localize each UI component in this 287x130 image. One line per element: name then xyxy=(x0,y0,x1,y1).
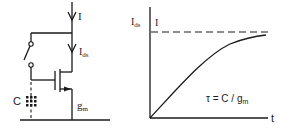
response-curve xyxy=(150,35,266,118)
diagram-canvas: I Ids gm C xyxy=(0,0,287,130)
switch-contact-top-icon xyxy=(29,42,33,46)
x-axis-label: t xyxy=(271,112,274,124)
time-constant-annotation: τ = C / gm xyxy=(206,93,248,105)
asymptote-label: I xyxy=(155,17,158,28)
capacitor-label: C xyxy=(13,95,21,107)
current-label: I xyxy=(78,10,82,22)
switch-blade-icon xyxy=(24,46,30,60)
circuit: I Ids gm C xyxy=(13,2,110,120)
capacitor-icon xyxy=(26,96,37,107)
chart: Ids I t τ = C / gm xyxy=(131,7,274,124)
y-axis-label: Ids xyxy=(131,16,141,29)
gm-label: gm xyxy=(77,99,89,113)
switch-contact-bottom-icon xyxy=(29,63,33,67)
drain-current-label: Ids xyxy=(79,46,89,59)
mosfet-icon xyxy=(55,69,72,92)
